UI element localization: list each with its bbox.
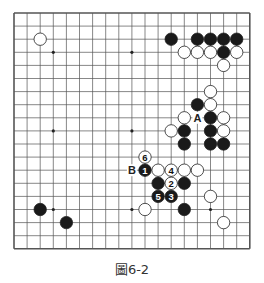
black-stone <box>178 138 190 150</box>
move-number: 3 <box>169 191 174 202</box>
black-stone <box>191 99 203 111</box>
star-point <box>209 208 212 211</box>
black-stone <box>204 112 216 124</box>
white-stone <box>178 164 190 176</box>
white-stone <box>152 164 164 176</box>
move-number: 5 <box>155 191 161 202</box>
black-stone <box>217 138 229 150</box>
star-point <box>52 129 55 132</box>
point-marker: B <box>128 164 136 176</box>
point-marker: A <box>193 112 201 124</box>
black-stone <box>178 177 190 189</box>
black-stone <box>165 33 177 45</box>
move-number: 1 <box>142 165 148 176</box>
black-stone <box>204 33 216 45</box>
black-stone: 1 <box>139 164 151 176</box>
white-stone: 6 <box>139 151 151 163</box>
black-stone <box>217 33 229 45</box>
white-stone <box>178 46 190 58</box>
white-stone: 2 <box>165 177 177 189</box>
move-number: 4 <box>169 165 175 176</box>
black-stone <box>204 138 216 150</box>
white-stone <box>191 46 203 58</box>
black-stone <box>34 203 46 215</box>
black-stone: 5 <box>152 190 164 202</box>
white-stone <box>204 46 216 58</box>
move-number: 6 <box>142 152 147 163</box>
white-stone <box>191 164 203 176</box>
white-stone <box>204 85 216 97</box>
black-stone <box>191 33 203 45</box>
white-stone <box>178 112 190 124</box>
black-stone <box>231 33 243 45</box>
figure-caption: 圖6-2 <box>0 259 264 278</box>
black-stone <box>204 125 216 137</box>
star-point <box>52 51 55 54</box>
white-stone <box>217 59 229 71</box>
star-point <box>130 129 133 132</box>
black-stone <box>152 177 164 189</box>
star-point <box>52 208 55 211</box>
star-point <box>130 51 133 54</box>
go-board: 614253 AB <box>0 0 264 258</box>
white-stone <box>217 112 229 124</box>
white-stone <box>217 216 229 228</box>
star-point <box>130 208 133 211</box>
black-stone: 3 <box>165 190 177 202</box>
black-stone <box>217 46 229 58</box>
white-stone: 4 <box>165 164 177 176</box>
white-stone <box>34 33 46 45</box>
black-stone <box>178 125 190 137</box>
white-stone <box>204 190 216 202</box>
black-stone <box>60 216 72 228</box>
move-number: 2 <box>169 178 174 189</box>
white-stone <box>217 125 229 137</box>
black-stone <box>178 203 190 215</box>
white-stone <box>231 46 243 58</box>
white-stone <box>165 125 177 137</box>
white-stone <box>204 99 216 111</box>
white-stone <box>139 203 151 215</box>
